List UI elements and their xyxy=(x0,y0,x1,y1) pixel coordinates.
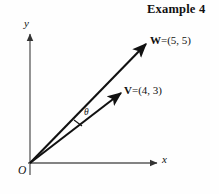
x-axis-label: x xyxy=(162,154,167,165)
vector-w-label: W=(5, 5) xyxy=(150,35,191,46)
example-title: Example 4 xyxy=(147,3,205,16)
vector-v-name: V xyxy=(124,84,132,96)
vector-diagram-figure: Example 4 y x O W=(5, 5) V=(4, 3) θ xyxy=(0,0,219,194)
theta-angle-label: θ xyxy=(84,108,89,118)
origin-label: O xyxy=(18,165,26,177)
vector-v-arrow xyxy=(30,93,121,163)
vector-w-components: =(5, 5) xyxy=(161,34,191,46)
figure-canvas xyxy=(0,0,219,194)
vector-w-name: W xyxy=(150,34,161,46)
vector-w-arrow xyxy=(30,44,146,163)
vector-v-components: =(4, 3) xyxy=(132,84,162,96)
y-axis-label: y xyxy=(24,18,29,29)
vector-v-label: V=(4, 3) xyxy=(124,85,162,96)
